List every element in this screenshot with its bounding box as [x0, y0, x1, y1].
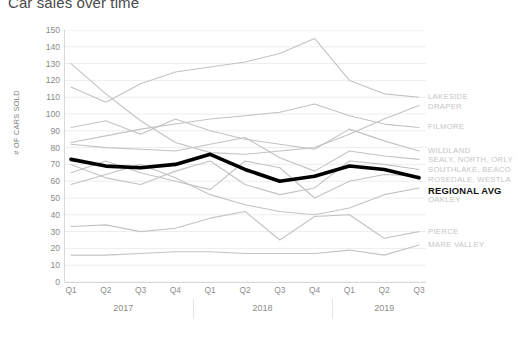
legend-item[interactable]: ROSEDALE, WESTLA [428, 176, 511, 184]
y-tick-label: 80 [32, 144, 60, 153]
x-axis-quarter-labels: Q1Q2Q3Q4Q1Q2Q3Q4Q1Q2Q3 [64, 285, 426, 299]
chart-legend: LAKESIDEDRAPERFILMOREWILDLANDSEALY, NORT… [428, 30, 530, 282]
x-group-label: 2018 [232, 303, 292, 313]
series-line [71, 211, 419, 240]
series-line [71, 104, 419, 143]
y-tick-label: 110 [32, 93, 60, 102]
series-line [71, 119, 419, 151]
y-axis-line [64, 30, 65, 282]
legend-item[interactable]: OAKLEY [428, 196, 461, 204]
y-tick-label: 40 [32, 211, 60, 220]
x-tick-label: Q1 [337, 285, 361, 295]
legend-item[interactable]: SEALY, NORTH, ORLY [428, 156, 513, 164]
y-tick-label: 140 [32, 43, 60, 52]
series-line [71, 64, 419, 155]
series-line [71, 38, 419, 102]
x-tick-label: Q1 [198, 285, 222, 295]
x-group-separator [193, 299, 194, 319]
y-tick-label: 50 [32, 194, 60, 203]
legend-item[interactable]: LAKESIDE [428, 93, 468, 101]
plot-area [64, 30, 426, 282]
y-tick-label: 100 [32, 110, 60, 119]
legend-item[interactable]: MARE VALLEY [428, 241, 484, 249]
x-tick-label: Q4 [303, 285, 327, 295]
y-tick-label: 30 [32, 228, 60, 237]
x-group-label: 2017 [93, 303, 153, 313]
y-axis-ticks: 1501401301201101009080706050403020100 [30, 0, 60, 338]
x-tick-label: Q3 [407, 285, 431, 295]
y-tick-label: 90 [32, 127, 60, 136]
x-axis-year-labels: 201720182019 [64, 303, 426, 321]
chart-container: Car sales over time # OF CARS SOLD 15014… [0, 0, 530, 338]
legend-item[interactable]: WILDLAND [428, 147, 470, 155]
y-tick-label: 70 [32, 160, 60, 169]
y-axis-title: # OF CARS SOLD [12, 83, 21, 163]
x-tick-label: Q2 [372, 285, 396, 295]
y-tick-label: 130 [32, 60, 60, 69]
series-line [71, 164, 419, 214]
x-tick-label: Q2 [233, 285, 257, 295]
series-line-highlight [71, 154, 419, 181]
x-axis-line [64, 282, 426, 283]
x-group-label: 2019 [354, 303, 414, 313]
x-tick-label: Q2 [94, 285, 118, 295]
y-tick-label: 120 [32, 76, 60, 85]
y-tick-label: 20 [32, 244, 60, 253]
legend-item[interactable]: FILMORE [428, 123, 464, 131]
x-group-separator [332, 299, 333, 319]
legend-item[interactable]: PIERCE [428, 228, 459, 236]
x-tick-label: Q4 [163, 285, 187, 295]
chart-title: Car sales over time [8, 0, 139, 11]
y-tick-label: 0 [32, 278, 60, 287]
series-lines [64, 30, 426, 282]
legend-item[interactable]: DRAPER [428, 103, 462, 111]
x-tick-label: Q1 [59, 285, 83, 295]
x-tick-label: Q3 [129, 285, 153, 295]
y-tick-label: 10 [32, 261, 60, 270]
y-tick-label: 60 [32, 177, 60, 186]
series-line [71, 245, 419, 255]
x-tick-label: Q3 [268, 285, 292, 295]
legend-item[interactable]: REGIONAL AVG [428, 186, 502, 195]
y-tick-label: 150 [32, 26, 60, 35]
legend-item[interactable]: SOUTHLAKE, BEACO [428, 166, 511, 174]
